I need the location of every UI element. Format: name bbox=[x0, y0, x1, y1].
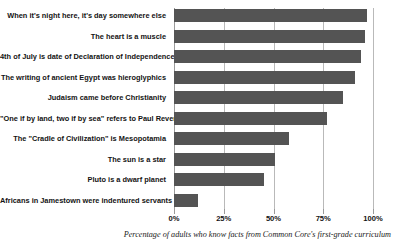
category-label: Judaism came before Christianity bbox=[0, 91, 170, 104]
gridline-100pct bbox=[373, 8, 374, 209]
tick-label: 100% bbox=[363, 214, 382, 223]
x-axis-tick-labels: 0%25%50%75%100% bbox=[174, 214, 373, 226]
bar-row bbox=[174, 132, 373, 145]
bar-chart: When it's night here, it's day somewhere… bbox=[0, 0, 395, 246]
category-label: When it's night here, it's day somewhere… bbox=[0, 9, 170, 22]
bar-row bbox=[174, 30, 373, 43]
bar-row bbox=[174, 153, 373, 166]
bar bbox=[174, 153, 275, 166]
category-label: Pluto is a dwarf planet bbox=[0, 173, 170, 186]
bar-row bbox=[174, 71, 373, 84]
bar-row bbox=[174, 173, 373, 186]
bar bbox=[174, 132, 289, 145]
bar-row bbox=[174, 112, 373, 125]
tick-label: 75% bbox=[316, 214, 331, 223]
tick-label: 50% bbox=[266, 214, 281, 223]
bar-row bbox=[174, 50, 373, 63]
plot-area bbox=[174, 8, 373, 209]
category-label: Africans in Jamestown were indentured se… bbox=[0, 194, 170, 207]
bar-series bbox=[174, 8, 373, 209]
bar bbox=[174, 9, 367, 22]
bar-row bbox=[174, 194, 373, 207]
category-label: 4th of July is date of Declaration of In… bbox=[0, 50, 170, 63]
category-label: The writing of ancient Egypt was hierogl… bbox=[0, 71, 170, 84]
bar-row bbox=[174, 91, 373, 104]
category-label: The "Cradle of Civilization" is Mesopota… bbox=[0, 132, 170, 145]
bar bbox=[174, 91, 343, 104]
bar bbox=[174, 50, 361, 63]
bar bbox=[174, 194, 198, 207]
category-axis-labels: When it's night here, it's day somewhere… bbox=[0, 8, 170, 209]
tick-label: 25% bbox=[216, 214, 231, 223]
bar bbox=[174, 30, 365, 43]
bar bbox=[174, 112, 327, 125]
chart-caption: Percentage of adults who know facts from… bbox=[0, 230, 391, 239]
tick-label: 0% bbox=[169, 214, 180, 223]
category-label: The sun is a star bbox=[0, 153, 170, 166]
category-label: The heart is a muscle bbox=[0, 30, 170, 43]
category-label: "One if by land, two if by sea" refers t… bbox=[0, 112, 170, 125]
bar bbox=[174, 173, 264, 186]
bar-row bbox=[174, 9, 373, 22]
bar bbox=[174, 71, 355, 84]
